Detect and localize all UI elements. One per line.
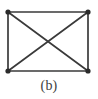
- figure-container: (b): [0, 0, 98, 99]
- vertex-top-right: [85, 9, 90, 14]
- graph-edges: [8, 12, 88, 71]
- figure-caption: (b): [0, 77, 98, 95]
- graph-drawing: [0, 0, 98, 80]
- vertex-bottom-left: [5, 68, 10, 73]
- vertex-top-left: [5, 9, 10, 14]
- vertex-bottom-right: [85, 68, 90, 73]
